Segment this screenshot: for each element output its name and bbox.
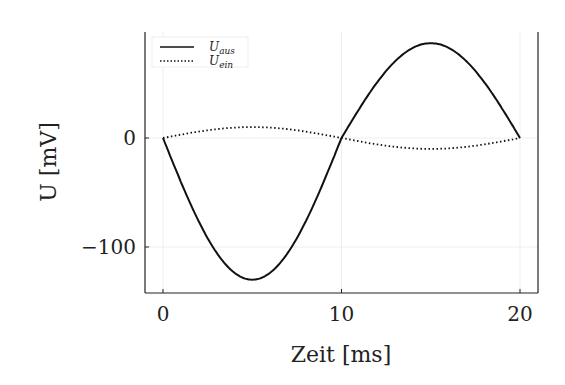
y-axis-label: U [mV] [36, 122, 61, 201]
x-tick-label: 10 [329, 302, 354, 326]
x-tick-label: 20 [507, 302, 532, 326]
x-axis-label: Zeit [ms] [291, 342, 392, 367]
chart: 010200−100Zeit [ms]U [mV]UausUein [0, 0, 565, 385]
x-tick-label: 0 [157, 302, 170, 326]
y-tick-label: 0 [123, 126, 136, 150]
y-tick-label: −100 [81, 235, 136, 259]
